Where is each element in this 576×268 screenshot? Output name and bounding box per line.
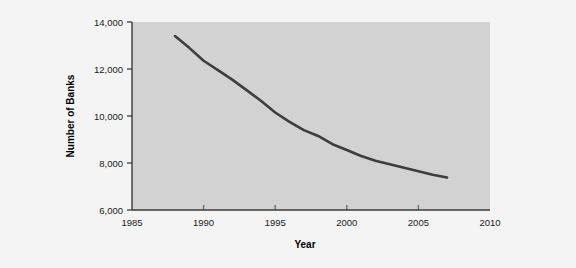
x-axis-tick-label: 1985: [121, 217, 142, 228]
x-axis-tick-label: 2005: [408, 217, 429, 228]
x-axis-tick-label: 1995: [265, 217, 286, 228]
figure-container: 6,0008,00010,00012,00014,000 19851990199…: [0, 0, 576, 268]
plot-area-background: [132, 22, 490, 210]
y-axis-tick-label: 12,000: [94, 64, 123, 75]
x-axis-title: Year: [294, 239, 315, 250]
bank-count-line-chart: 6,0008,00010,00012,00014,000 19851990199…: [0, 0, 576, 268]
y-axis-title: Number of Banks: [65, 74, 76, 157]
y-axis-tick-label: 10,000: [94, 111, 123, 122]
y-axis-tick-label: 6,000: [99, 205, 123, 216]
x-axis-tick-label: 2010: [479, 217, 500, 228]
y-axis-tick-label: 8,000: [99, 158, 123, 169]
y-axis-tick-label: 14,000: [94, 17, 123, 28]
x-axis-tick-label: 2000: [336, 217, 357, 228]
x-axis-tick-label: 1990: [193, 217, 214, 228]
